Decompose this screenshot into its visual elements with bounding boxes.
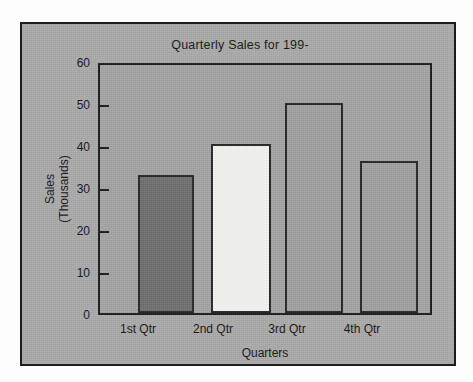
y-tick-mark-10 bbox=[100, 273, 109, 275]
y-tick-label-40: 40 bbox=[56, 141, 90, 153]
chart-title: Quarterly Sales for 199- bbox=[22, 38, 458, 52]
y-tick-label-20: 20 bbox=[56, 225, 90, 237]
y-axis-title-line1: Sales bbox=[43, 144, 57, 234]
y-tick-label-50: 50 bbox=[56, 99, 90, 111]
x-tick-label-4th-qtr: 4th Qtr bbox=[330, 322, 394, 336]
y-tick-label-0: 0 bbox=[56, 309, 90, 321]
y-tick-mark-40 bbox=[100, 147, 109, 149]
y-tick-mark-20 bbox=[100, 231, 109, 233]
plot-area bbox=[98, 63, 432, 315]
bar-2nd-qtr[interactable] bbox=[211, 144, 271, 313]
y-tick-label-30: 30 bbox=[56, 183, 90, 195]
x-tick-label-1st-qtr: 1st Qtr bbox=[106, 322, 170, 336]
bar-1st-qtr[interactable] bbox=[138, 175, 194, 313]
x-tick-label-3rd-qtr: 3rd Qtr bbox=[255, 322, 319, 336]
y-tick-label-10: 10 bbox=[56, 267, 90, 279]
scanned-page-background: Quarterly Sales for 199- Sales (Thousand… bbox=[0, 0, 473, 382]
chart-figure-card: Quarterly Sales for 199- Sales (Thousand… bbox=[20, 22, 456, 366]
y-tick-mark-30 bbox=[100, 189, 109, 191]
y-tick-label-60: 60 bbox=[56, 57, 90, 69]
y-tick-mark-50 bbox=[100, 105, 109, 107]
x-axis-title: Quarters bbox=[98, 346, 432, 360]
bar-3rd-qtr[interactable] bbox=[285, 103, 343, 313]
x-tick-label-2nd-qtr: 2nd Qtr bbox=[181, 322, 245, 336]
bar-4th-qtr[interactable] bbox=[360, 161, 418, 313]
